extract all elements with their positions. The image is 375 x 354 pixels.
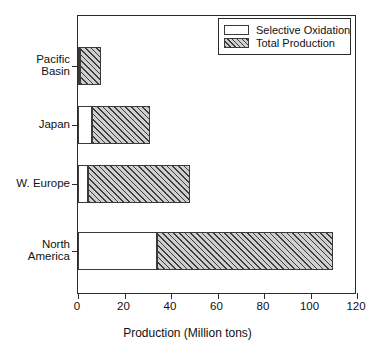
- x-axis-tick: [264, 293, 265, 299]
- y-axis-tick: [72, 125, 78, 126]
- plot-area: Selective Oxidation Total Production: [77, 15, 356, 294]
- legend-label-selective-oxidation: Selective Oxidation: [256, 24, 350, 36]
- x-axis-tick: [171, 293, 172, 299]
- bar-segment-total-production: [157, 232, 333, 270]
- x-axis-tick: [218, 293, 219, 299]
- white-box-icon: [224, 25, 249, 35]
- x-axis-title: Production (Million tons): [0, 326, 375, 340]
- bar-segment-total-production: [88, 165, 190, 203]
- bar-segment-total-production: [80, 47, 101, 85]
- y-axis-label-japan: Japan: [2, 118, 70, 131]
- bar-segment-selective-oxidation: [78, 106, 92, 144]
- x-axis-tick: [125, 293, 126, 299]
- y-axis-tick: [72, 251, 78, 252]
- x-axis-tick-label: 40: [164, 300, 177, 312]
- x-axis-tick: [78, 293, 79, 299]
- x-axis-tick-label: 80: [257, 300, 270, 312]
- x-axis-tick: [311, 293, 312, 299]
- bar-segment-total-production: [92, 106, 150, 144]
- bar-group: [78, 106, 357, 144]
- x-axis-tick-label: 0: [74, 300, 80, 312]
- x-axis-tick: [357, 293, 358, 299]
- bar-group: [78, 47, 357, 85]
- y-axis-label-pacific-basin: Pacific Basin: [2, 53, 70, 78]
- bar-segment-selective-oxidation: [78, 47, 80, 85]
- y-axis-tick: [72, 184, 78, 185]
- x-axis-tick-label: 60: [210, 300, 223, 312]
- x-axis-tick-label: 120: [346, 300, 365, 312]
- x-axis-tick-label: 100: [300, 300, 319, 312]
- x-axis-tick-label: 20: [117, 300, 130, 312]
- legend-item-selective-oxidation: Selective Oxidation: [224, 24, 345, 36]
- bar-group: [78, 232, 357, 270]
- bar-segment-selective-oxidation: [78, 165, 88, 203]
- chart-container: Selective Oxidation Total Production Pac…: [0, 0, 375, 354]
- y-axis-label-w-europe: W. Europe: [2, 177, 70, 190]
- y-axis-label-north-america: North America: [2, 238, 70, 263]
- y-axis-tick: [72, 66, 78, 67]
- bar-group: [78, 165, 357, 203]
- bar-segment-selective-oxidation: [78, 232, 157, 270]
